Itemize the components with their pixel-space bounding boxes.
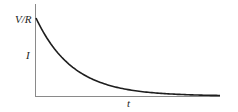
decay-curve xyxy=(36,18,220,95)
v-over-r-label: V/R xyxy=(15,14,32,25)
decay-diagram: V/R I t xyxy=(0,0,238,112)
plot-area xyxy=(0,0,238,112)
current-axis-label: I xyxy=(26,50,30,61)
time-axis-label: t xyxy=(127,98,130,109)
